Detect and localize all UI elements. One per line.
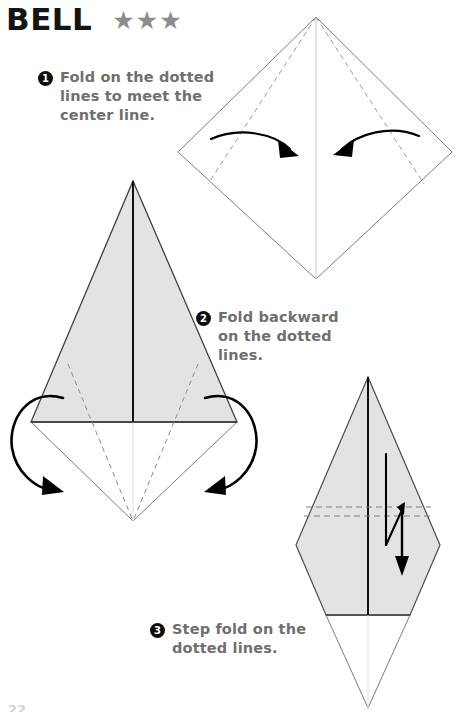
- step-number-badge: 1: [38, 71, 53, 86]
- step-instruction-text: Fold on the dotted lines to meet the cen…: [60, 68, 223, 125]
- step-number-badge: 2: [196, 311, 211, 326]
- page-header: BELL ★ ★ ★: [6, 2, 183, 36]
- step-instruction-text: Step fold on the dotted lines.: [172, 620, 320, 658]
- page-number: 22: [8, 703, 26, 712]
- step-callout-2: 2 Fold backward on the dotted lines.: [196, 308, 346, 365]
- diagram-step-3: [285, 368, 459, 712]
- step-callout-3: 3 Step fold on the dotted lines.: [150, 620, 320, 658]
- star-icon: ★: [112, 8, 134, 33]
- paper-lower-white: [31, 422, 237, 521]
- page-title: BELL: [6, 2, 92, 36]
- step-callout-1: 1 Fold on the dotted lines to meet the c…: [38, 68, 223, 125]
- step-instruction-text: Fold backward on the dotted lines.: [218, 308, 346, 365]
- step-number-badge: 3: [150, 623, 165, 638]
- star-icon: ★: [136, 8, 158, 33]
